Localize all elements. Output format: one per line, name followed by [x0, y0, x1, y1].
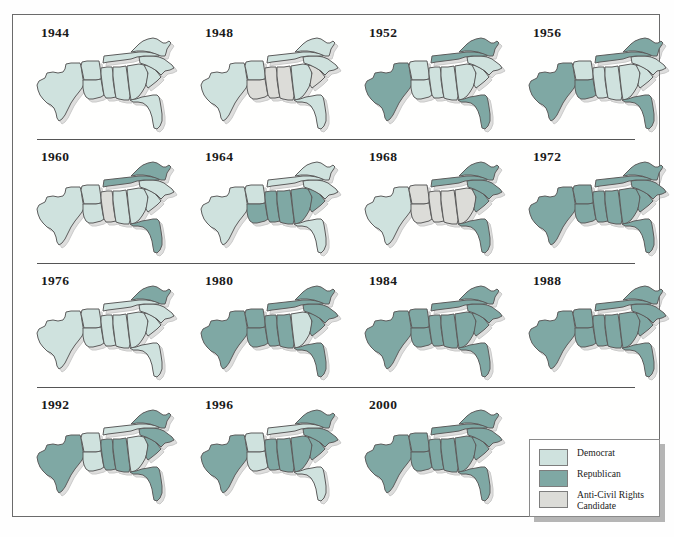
map-cell-1948[interactable]: 1948 — [189, 17, 350, 141]
state-FL[interactable] — [130, 95, 162, 129]
map-cell-1960[interactable]: 1960 — [25, 141, 186, 265]
legend-swatch-republican — [539, 470, 568, 487]
state-FL[interactable] — [294, 219, 326, 253]
map-svg-1948 — [189, 35, 350, 139]
map-svg-1952 — [353, 35, 514, 139]
state-TX[interactable] — [201, 187, 248, 245]
state-LA[interactable] — [83, 203, 104, 223]
map-cell-1984[interactable]: 1984 — [353, 265, 514, 389]
state-TX[interactable] — [365, 63, 412, 121]
map-svg-1980 — [189, 283, 350, 387]
state-AR[interactable] — [245, 185, 265, 204]
map-cell-1944[interactable]: 1944 — [25, 17, 186, 141]
state-TX[interactable] — [365, 187, 412, 245]
map-cell-1976[interactable]: 1976 — [25, 265, 186, 389]
map-svg-1996 — [189, 407, 350, 511]
state-FL[interactable] — [622, 219, 654, 253]
map-cell-1988[interactable]: 1988 — [517, 265, 674, 389]
state-LA[interactable] — [83, 79, 104, 99]
state-AR[interactable] — [573, 185, 593, 204]
legend-swatch-anticivil — [539, 491, 568, 508]
state-TX[interactable] — [37, 63, 84, 121]
state-FL[interactable] — [458, 219, 490, 253]
state-AR[interactable] — [409, 185, 429, 204]
state-TX[interactable] — [37, 435, 84, 493]
state-LA[interactable] — [575, 203, 596, 223]
state-AR[interactable] — [81, 61, 101, 80]
state-AR[interactable] — [409, 309, 429, 328]
state-FL[interactable] — [130, 343, 162, 377]
map-svg-1956 — [517, 35, 674, 139]
state-AR[interactable] — [245, 61, 265, 80]
state-LA[interactable] — [247, 327, 268, 347]
state-AR[interactable] — [81, 185, 101, 204]
state-FL[interactable] — [294, 467, 326, 501]
state-TX[interactable] — [529, 187, 576, 245]
map-svg-1960 — [25, 159, 186, 263]
map-cell-1980[interactable]: 1980 — [189, 265, 350, 389]
map-svg-1972 — [517, 159, 674, 263]
map-cell-1964[interactable]: 1964 — [189, 141, 350, 265]
state-LA[interactable] — [247, 451, 268, 471]
state-FL[interactable] — [622, 95, 654, 129]
figure-frame: 1944194819521956196019641968197219761980… — [12, 14, 660, 517]
map-svg-1944 — [25, 35, 186, 139]
state-AR[interactable] — [409, 61, 429, 80]
state-AR[interactable] — [245, 433, 265, 452]
state-LA[interactable] — [247, 203, 268, 223]
state-TX[interactable] — [37, 187, 84, 245]
state-TX[interactable] — [365, 311, 412, 369]
legend-item-anticivil: Anti-Civil Rights Candidate — [539, 490, 659, 511]
legend-item-democrat: Democrat — [539, 448, 615, 466]
map-svg-1984 — [353, 283, 514, 387]
state-TX[interactable] — [201, 311, 248, 369]
state-FL[interactable] — [130, 467, 162, 501]
state-LA[interactable] — [411, 327, 432, 347]
state-TX[interactable] — [201, 63, 248, 121]
state-AR[interactable] — [81, 309, 101, 328]
map-cell-1956[interactable]: 1956 — [517, 17, 674, 141]
state-AR[interactable] — [573, 61, 593, 80]
state-FL[interactable] — [458, 467, 490, 501]
state-FL[interactable] — [622, 343, 654, 377]
state-FL[interactable] — [294, 95, 326, 129]
legend-label-democrat: Democrat — [577, 448, 615, 459]
state-AR[interactable] — [245, 309, 265, 328]
state-FL[interactable] — [130, 219, 162, 253]
state-LA[interactable] — [247, 79, 268, 99]
state-FL[interactable] — [458, 95, 490, 129]
map-svg-1968 — [353, 159, 514, 263]
map-cell-2000[interactable]: 2000 — [353, 389, 514, 513]
state-LA[interactable] — [411, 451, 432, 471]
map-svg-1988 — [517, 283, 674, 387]
state-LA[interactable] — [83, 327, 104, 347]
state-TX[interactable] — [529, 63, 576, 121]
legend-swatch-democrat — [539, 449, 568, 466]
map-cell-1992[interactable]: 1992 — [25, 389, 186, 513]
state-FL[interactable] — [294, 343, 326, 377]
map-cell-1968[interactable]: 1968 — [353, 141, 514, 265]
state-LA[interactable] — [575, 327, 596, 347]
state-TX[interactable] — [37, 311, 84, 369]
map-cell-1996[interactable]: 1996 — [189, 389, 350, 513]
map-svg-2000 — [353, 407, 514, 511]
map-cell-1972[interactable]: 1972 — [517, 141, 674, 265]
state-LA[interactable] — [411, 203, 432, 223]
state-TX[interactable] — [201, 435, 248, 493]
map-cell-1952[interactable]: 1952 — [353, 17, 514, 141]
map-svg-1992 — [25, 407, 186, 511]
legend-box: Democrat Republican Anti-Civil Rights Ca… — [529, 439, 660, 517]
legend-label-anticivil: Anti-Civil Rights Candidate — [577, 490, 659, 511]
figure-root: 1944194819521956196019641968197219761980… — [0, 0, 674, 537]
state-TX[interactable] — [529, 311, 576, 369]
state-AR[interactable] — [81, 433, 101, 452]
state-LA[interactable] — [575, 79, 596, 99]
map-svg-1964 — [189, 159, 350, 263]
state-AR[interactable] — [409, 433, 429, 452]
legend-item-republican: Republican — [539, 469, 621, 487]
state-TX[interactable] — [365, 435, 412, 493]
state-LA[interactable] — [83, 451, 104, 471]
state-FL[interactable] — [458, 343, 490, 377]
state-AR[interactable] — [573, 309, 593, 328]
state-LA[interactable] — [411, 79, 432, 99]
